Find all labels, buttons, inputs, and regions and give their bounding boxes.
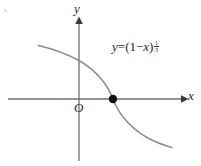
function-curve (39, 46, 173, 148)
y-axis-arrowhead (75, 17, 83, 25)
equation-equals-sign: = (118, 40, 125, 53)
graph-canvas (0, 0, 201, 166)
origin-label: O (74, 101, 83, 114)
x-intercept-point (109, 95, 117, 103)
equation-exponent-fraction: 1 3 (154, 40, 159, 54)
exponent-denominator: 3 (154, 47, 158, 53)
function-graph-figure: y x O y = ( 1 − x ) 1 3 (0, 0, 201, 166)
equation-close-paren: ) (149, 40, 153, 53)
equation-annotation: y = ( 1 − x ) 1 3 (112, 40, 159, 60)
y-axis-label: y (74, 2, 80, 15)
x-axis-label: x (188, 89, 194, 102)
